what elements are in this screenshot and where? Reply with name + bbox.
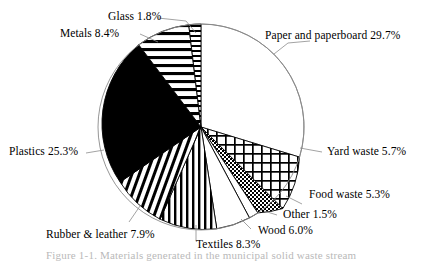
leader-line-paper (274, 41, 310, 54)
pie-label-plastics: Plastics 25.3% (9, 145, 78, 157)
pie-slices (98, 24, 304, 230)
pie-label-other: Other 1.5% (283, 208, 337, 220)
pie-label-paper-and-paperboard: Paper and paperboard 29.7% (265, 29, 400, 41)
leader-line-food-waste (286, 196, 302, 204)
pie-label-textiles: Textiles 8.3% (196, 238, 260, 250)
pie-label-food-waste: Food waste 5.3% (309, 188, 390, 200)
figure-caption-text: Figure 1-1. Materials generated in the m… (46, 252, 356, 261)
pie-label-yard-waste: Yard waste 5.7% (327, 145, 406, 157)
pie-label-rubber-and-leather: Rubber & leather 7.9% (46, 228, 155, 240)
leader-line-rubber (129, 206, 140, 222)
figure-caption-cropped: Figure 1-1. Materials generated in the m… (0, 252, 426, 262)
pie-chart-figure: Glass 1.8% Metals 8.4% Paper and paperbo… (0, 0, 426, 262)
pie-label-glass: Glass 1.8% (108, 10, 161, 22)
leader-line-wood (241, 219, 251, 229)
pie-label-metals: Metals 8.4% (60, 27, 119, 39)
pie-label-wood: Wood 6.0% (258, 224, 313, 236)
leader-line-yard-waste (300, 148, 322, 152)
